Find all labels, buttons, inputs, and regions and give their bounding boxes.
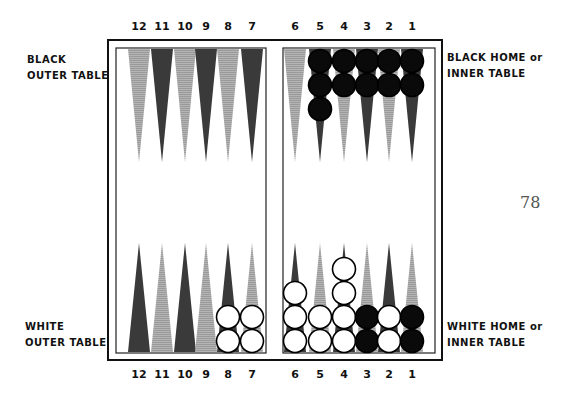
white-checker[interactable] — [241, 306, 264, 329]
white-checker[interactable] — [217, 330, 240, 353]
white-checker[interactable] — [333, 330, 356, 353]
white-checker[interactable] — [333, 258, 356, 281]
black-checker[interactable] — [401, 306, 424, 329]
backgammon-board — [0, 0, 572, 399]
white-checker[interactable] — [378, 330, 401, 353]
white-checker[interactable] — [284, 330, 307, 353]
black-checker[interactable] — [333, 74, 356, 97]
white-checker[interactable] — [217, 306, 240, 329]
black-checker[interactable] — [309, 98, 332, 121]
white-checker[interactable] — [284, 282, 307, 305]
black-checker[interactable] — [378, 50, 401, 73]
black-checker[interactable] — [356, 74, 379, 97]
black-checker[interactable] — [401, 330, 424, 353]
white-checker[interactable] — [333, 306, 356, 329]
black-checker[interactable] — [333, 50, 356, 73]
white-checker[interactable] — [309, 330, 332, 353]
black-checker[interactable] — [401, 50, 424, 73]
black-checker[interactable] — [356, 330, 379, 353]
black-checker[interactable] — [401, 74, 424, 97]
black-checker[interactable] — [378, 74, 401, 97]
white-checker[interactable] — [378, 306, 401, 329]
white-checker[interactable] — [333, 282, 356, 305]
black-checker[interactable] — [356, 306, 379, 329]
white-checker[interactable] — [284, 306, 307, 329]
black-checker[interactable] — [309, 74, 332, 97]
black-checker[interactable] — [356, 50, 379, 73]
white-checker[interactable] — [309, 306, 332, 329]
white-checker[interactable] — [241, 330, 264, 353]
black-checker[interactable] — [309, 50, 332, 73]
